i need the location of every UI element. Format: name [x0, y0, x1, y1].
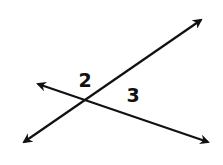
line-a	[24, 20, 201, 142]
angle-diagram: 2 3	[0, 0, 223, 165]
line-b	[38, 84, 208, 142]
angle-label-3: 3	[126, 84, 139, 106]
angle-label-2: 2	[78, 69, 91, 91]
diagram-svg: 2 3	[0, 0, 223, 165]
